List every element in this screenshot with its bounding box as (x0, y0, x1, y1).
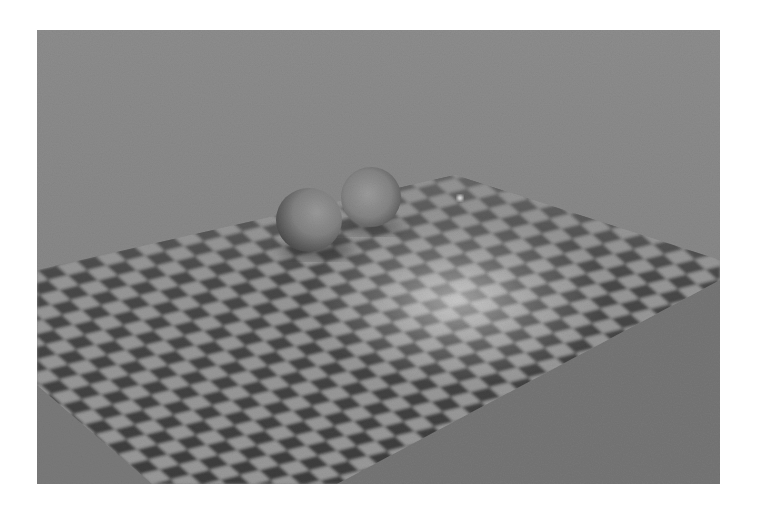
left-sphere (276, 188, 342, 252)
scene-canvas (37, 30, 720, 484)
specular-highlight (457, 195, 463, 201)
rendered-image: Ray-traced render of two spheres resting… (37, 30, 720, 484)
right-sphere (341, 167, 401, 227)
